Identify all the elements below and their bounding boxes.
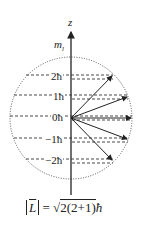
level-label-1: 1ħ [52, 91, 65, 102]
z-axis-label: z [68, 17, 72, 28]
level-label-minus-2: −2ħ [44, 155, 63, 166]
magnitude-formula: L = √2(2+1)ħ [26, 200, 102, 216]
level-label-2: 2ħ [50, 71, 63, 82]
ml-label: ml [54, 39, 64, 55]
angular-momentum-vectors [71, 76, 131, 160]
level-label-0: 0ħ [51, 112, 64, 123]
level-label-minus-1: −1ħ [44, 134, 63, 145]
